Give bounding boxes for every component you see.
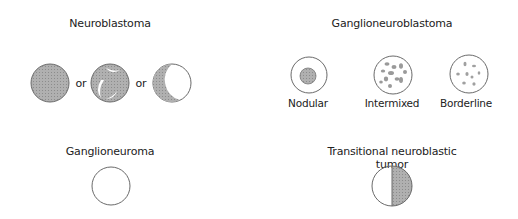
neuroblastoma-solid-circle bbox=[31, 64, 69, 102]
neuroblastoma-edge-circle bbox=[153, 64, 191, 102]
ganglioneuroma-circle bbox=[92, 167, 130, 205]
borderline-circle bbox=[450, 55, 488, 93]
intermixed-circle bbox=[374, 56, 412, 94]
neuroblastoma-crescent-circle bbox=[91, 64, 129, 102]
nodular-circle bbox=[291, 57, 327, 93]
transitional-circle bbox=[372, 166, 412, 206]
diagram-canvas bbox=[0, 0, 518, 219]
